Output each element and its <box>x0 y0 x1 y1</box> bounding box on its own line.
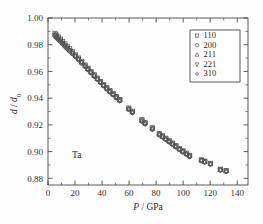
y-axis-label: d / d0 <box>9 94 22 114</box>
figure-container: 0204060801001201400.880.900.920.940.960.… <box>0 0 263 224</box>
y-tick-label: 0.92 <box>27 120 43 130</box>
legend[interactable]: 110200211221310 <box>190 30 240 82</box>
legend-label-110: 110 <box>204 30 216 40</box>
x-tick-label: 0 <box>46 188 51 198</box>
x-tick-label: 120 <box>203 188 217 198</box>
x-axis-unit: / GPa <box>139 202 164 212</box>
legend-label-200: 200 <box>204 40 217 50</box>
material-annotation: Ta <box>72 150 82 160</box>
x-tick-label: 140 <box>230 188 244 198</box>
x-tick-label: 20 <box>71 188 81 198</box>
x-tick-label: 60 <box>125 188 135 198</box>
x-tick-label: 100 <box>176 188 190 198</box>
y-tick-label: 0.98 <box>27 40 43 50</box>
x-tick-label: 40 <box>98 188 108 198</box>
legend-label-221: 221 <box>204 59 217 69</box>
y-tick-label: 0.96 <box>27 67 43 77</box>
legend-label-211: 211 <box>204 49 216 59</box>
y-tick-label: 0.90 <box>27 147 43 157</box>
y-tick-label: 0.88 <box>27 174 43 184</box>
y-tick-label: 0.94 <box>27 93 43 103</box>
x-tick-label: 80 <box>152 188 162 198</box>
scatter-plot: 0204060801001201400.880.900.920.940.960.… <box>0 0 263 224</box>
y-axis-sep: / <box>9 102 19 109</box>
y-axis-subscript: 0 <box>15 94 22 97</box>
x-axis-label: P / GPa <box>132 202 163 212</box>
legend-label-310: 310 <box>204 68 217 78</box>
y-tick-label: 1.00 <box>27 13 43 23</box>
